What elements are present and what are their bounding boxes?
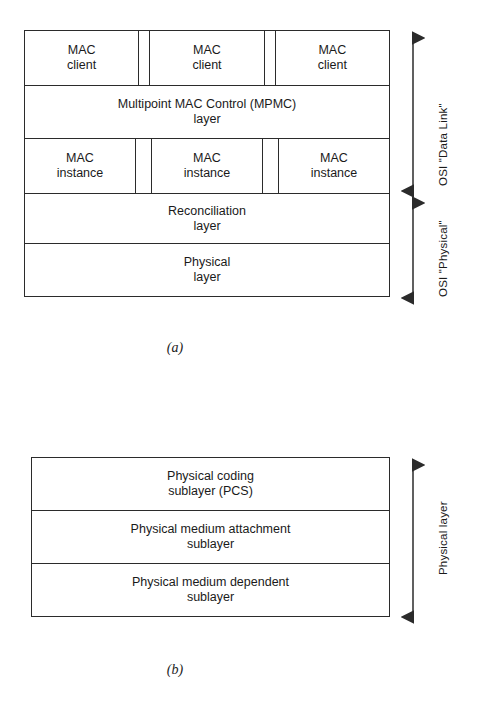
pma-sublayer-line1: Physical medium attachment	[131, 522, 291, 537]
pmd-sublayer-line2: sublayer	[187, 590, 234, 605]
pcs-sublayer-line1: Physical coding	[167, 469, 254, 484]
figure-b-caption: (b)	[0, 662, 416, 678]
physical-layer-stack: Physical coding sublayer (PCS) Physical …	[31, 457, 390, 617]
pcs-sublayer-box: Physical coding sublayer (PCS)	[32, 458, 389, 511]
pma-sublayer-box: Physical medium attachment sublayer	[32, 511, 389, 564]
pmd-sublayer-box: Physical medium dependent sublayer	[32, 564, 389, 616]
pcs-sublayer-line2: sublayer (PCS)	[168, 484, 253, 499]
pmd-sublayer-line1: Physical medium dependent	[132, 575, 289, 590]
figure-b: Physical coding sublayer (PCS) Physical …	[0, 0, 482, 704]
physical-layer-side-label: Physical layer	[437, 501, 449, 575]
physical-layer-span-arrow-icon	[400, 451, 428, 631]
pma-sublayer-line2: sublayer	[187, 537, 234, 552]
